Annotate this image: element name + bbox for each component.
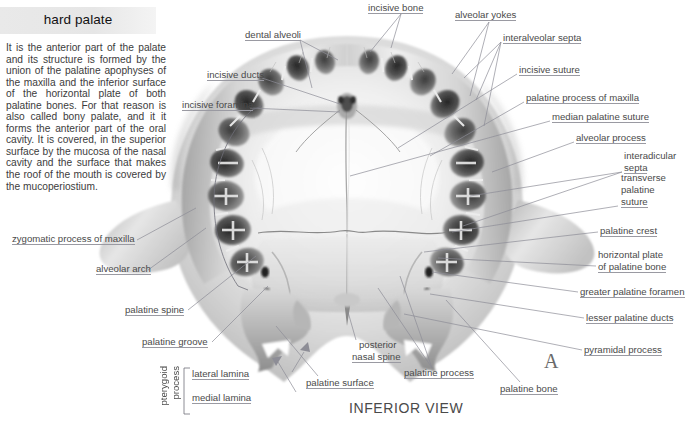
label-lesser-palatine-ducts: lesser palatine ducts — [586, 312, 673, 324]
label-incisive-foramina: incisive foramina — [182, 99, 253, 111]
label-interalveolar-septa: interalveolar septa — [503, 32, 581, 44]
label-transverse-palatine-suture-line3: suture — [621, 196, 648, 208]
info-title-box: hard palate — [0, 7, 156, 34]
label-interadicular-septa-line1: interadicular — [624, 150, 676, 161]
label-incisive-suture: incisive suture — [519, 64, 580, 76]
label-zygomatic-process-of-maxilla: zygomatic process of maxilla — [12, 233, 135, 245]
label-transverse-palatine-suture-line2: palatine — [621, 184, 655, 195]
label-alveolar-arch: alveolar arch — [96, 263, 151, 275]
label-pyramidal-process: pyramidal process — [584, 344, 662, 356]
label-median-palatine-suture: median palatine suture — [552, 111, 649, 123]
label-palatine-crest: palatine crest — [600, 225, 657, 237]
label-palatine-spine: palatine spine — [125, 304, 184, 316]
label-transverse-palatine-suture-line1: transverse — [621, 172, 666, 183]
panel-marker-a: A — [544, 350, 558, 373]
label-lateral-lamina: lateral lamina — [192, 368, 249, 380]
description-text: It is the anterior part of the palate an… — [6, 42, 166, 192]
figure-caption: INFERIOR VIEW — [349, 400, 463, 416]
label-palatine-groove: palatine groove — [142, 336, 208, 348]
label-pterygoid-process-line2: process — [170, 366, 181, 400]
label-posterior-nasal-spine-line2: nasal spine — [352, 351, 401, 363]
label-palatine-bone: palatine bone — [500, 383, 558, 395]
page-title: hard palate — [0, 12, 156, 27]
label-horizontal-plate-line2: of palatine bone — [598, 261, 666, 273]
label-medial-lamina: medial lamina — [192, 392, 251, 404]
label-alveolar-process: alveolar process — [576, 132, 646, 144]
label-pterygoid-process-line1: pterygoid — [158, 366, 169, 405]
label-incisive-ducts: incisive ducts — [207, 69, 264, 81]
label-palatine-process: palatine process — [404, 367, 474, 379]
label-palatine-process-of-maxilla: palatine process of maxilla — [526, 92, 639, 104]
label-alveolar-yokes: alveolar yokes — [455, 9, 516, 21]
label-horizontal-plate-line1: horizontal plate — [598, 249, 663, 260]
label-greater-palatine-foramen: greater palatine foramen — [580, 286, 685, 298]
label-incisive-bone: incisive bone — [368, 2, 423, 14]
figure-canvas: hard palate It is the anterior part of t… — [0, 0, 694, 423]
label-dental-alveoli: dental alveoli — [245, 29, 301, 41]
label-posterior-nasal-spine-line1: posterior — [359, 339, 396, 350]
label-palatine-surface: palatine surface — [306, 377, 374, 389]
